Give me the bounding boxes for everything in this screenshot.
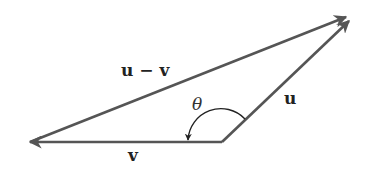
vector-diagram: u − v u θ v (0, 0, 368, 175)
label-theta: θ (192, 94, 202, 114)
label-v: v (127, 145, 139, 165)
vector-u-minus-v (30, 17, 346, 142)
vector-u (222, 21, 349, 142)
label-u: u (284, 88, 296, 108)
label-u-minus-v: u − v (121, 60, 170, 80)
